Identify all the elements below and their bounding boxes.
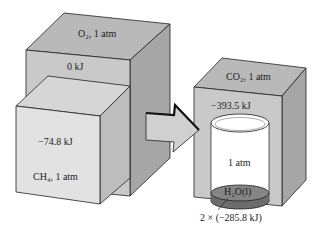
o2-label: O₂, 1 atm xyxy=(78,28,116,39)
co2-label: CO₂, 1 atm xyxy=(226,71,271,82)
ch4-label: CH₄, 1 atm xyxy=(33,171,78,182)
diagram-canvas xyxy=(0,0,324,234)
water-label: H₂O(l) xyxy=(224,186,251,197)
water-energy: 2 × (−285.8 kJ) xyxy=(200,212,262,223)
ch4-box xyxy=(16,76,130,204)
ch4-energy: −74.8 kJ xyxy=(38,136,73,147)
beaker-pressure-label: 1 atm xyxy=(228,157,251,168)
co2-energy: −393.5 kJ xyxy=(211,100,251,111)
o2-energy: 0 kJ xyxy=(67,61,83,72)
